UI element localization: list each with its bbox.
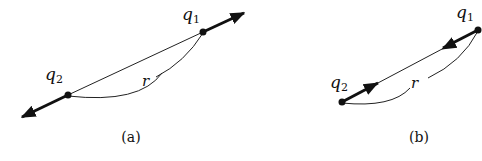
force-arrow-q1-a [203, 13, 244, 32]
charge-q2-a [65, 92, 72, 99]
charge-q1-b [475, 27, 482, 34]
caption-b: (b) [409, 129, 429, 145]
label-q2-a: q2 [45, 64, 63, 86]
label-q1-b: q1 [456, 2, 474, 24]
label-r-a: r [142, 72, 150, 90]
force-line-q1-b [443, 30, 478, 48]
figure-a: q1 q2 r (a) [22, 4, 244, 145]
distance-arc-a-right [156, 33, 203, 77]
caption-a: (a) [121, 129, 140, 145]
label-q1-a: q1 [182, 4, 200, 26]
figure-b: q1 q2 r (b) [330, 2, 482, 145]
force-arrow-q2-a [22, 95, 68, 117]
charge-q1-a [200, 29, 207, 36]
charge-q2-b [339, 99, 346, 106]
label-q2-b: q2 [330, 72, 348, 94]
chord-line-a [68, 32, 203, 95]
label-r-b: r [411, 74, 419, 92]
distance-arc-b-right [428, 31, 478, 78]
coulomb-force-diagram: q1 q2 r (a) q1 q2 r (b) [0, 0, 482, 161]
